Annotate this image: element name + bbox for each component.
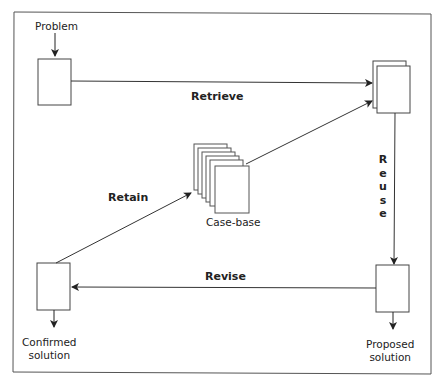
confirmed-solution-line1: Confirmed [22, 336, 77, 349]
reuse-label: R e u s e [378, 153, 388, 221]
problem-box [38, 59, 71, 105]
retrieved-case-front [377, 66, 410, 113]
reuse-letter: e [378, 167, 388, 181]
diagram-canvas [0, 0, 439, 381]
revise-arrow [72, 287, 376, 288]
reuse-letter: e [378, 207, 388, 221]
retrieve-arrow [71, 81, 372, 83]
case-base-label: Case-base [206, 216, 261, 229]
reuse-letter: s [378, 194, 388, 208]
confirmed-solution-line2: solution [22, 349, 77, 362]
case-base-stack [194, 144, 249, 213]
proposed-solution-box [376, 265, 409, 312]
reuse-arrow [394, 113, 395, 264]
retain-label: Retain [108, 191, 148, 204]
proposed-solution-line1: Proposed [366, 338, 414, 351]
case-base-link-arrow [246, 101, 372, 164]
problem-label: Problem [35, 20, 78, 33]
confirmed-solution-label: Confirmed solution [22, 336, 77, 362]
proposed-solution-line2: solution [366, 351, 414, 364]
retrieve-label: Retrieve [191, 90, 243, 103]
confirmed-solution-box [37, 263, 70, 310]
revise-label: Revise [205, 270, 246, 283]
reuse-letter: u [378, 180, 388, 194]
proposed-solution-label: Proposed solution [366, 338, 414, 364]
reuse-letter: R [378, 153, 388, 167]
